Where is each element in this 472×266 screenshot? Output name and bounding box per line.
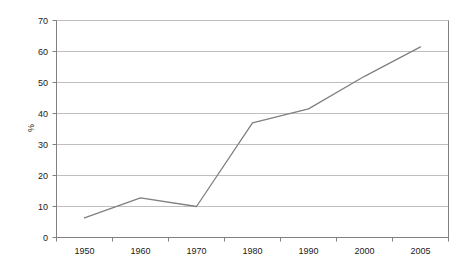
y-tick-label: 50	[22, 78, 48, 87]
y-tick-label: 30	[22, 140, 48, 149]
x-tick-label: 1980	[242, 247, 262, 256]
x-tick-label: 2000	[354, 247, 374, 256]
x-tick-label: 1990	[298, 247, 318, 256]
data-series-line	[85, 47, 421, 218]
x-tick-label: 1970	[186, 247, 206, 256]
x-tick-label: 1960	[130, 247, 150, 256]
x-tick-label: 1950	[74, 247, 94, 256]
line-chart: % 010203040506070 1950196019701980199020…	[0, 0, 472, 266]
y-tick-label: 20	[22, 171, 48, 180]
y-tick-label: 0	[22, 233, 48, 242]
x-tick-label: 2005	[410, 247, 430, 256]
y-tick-label: 70	[22, 16, 48, 25]
plot-area	[0, 0, 472, 266]
y-tick-label: 10	[22, 202, 48, 211]
y-tick-label: 60	[22, 47, 48, 56]
y-tick-label: 40	[22, 109, 48, 118]
